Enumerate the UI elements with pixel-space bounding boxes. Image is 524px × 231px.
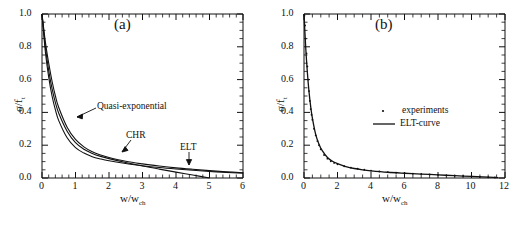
panel-a-yticks-minor [42,22,243,170]
panel-a-ytick-0: 0.0 [19,171,32,182]
panel-a-yaxis-title: σ/ft [12,97,27,112]
panel-b-xticks-minor [312,14,496,178]
annotation-quasi-exponential: Quasi-exponential [97,101,167,111]
panel-a-xtick-4: 4 [173,180,178,191]
panel-b-xtick-1: 2 [335,180,340,191]
panel-b-yaxis-title-main: σ/f [274,99,286,112]
elt-curve [42,14,243,173]
legend-label-elt-curve: ELT-curve [400,118,440,128]
panel-a-xaxis-title: w/wch [120,192,146,207]
panel-b-xtick-6: 12 [499,180,509,191]
panel-a-axes [42,14,243,178]
chr-curve [42,14,210,178]
panel-a-xtick-2: 2 [106,180,111,191]
panel-b-xtick-5: 10 [466,180,476,191]
panel-b-ytick-5: 1.0 [281,7,294,18]
elt-curve-fit [304,14,498,178]
experiments-scatter [303,15,496,179]
panel-b-yaxis-title: σ/ft [274,97,289,112]
panel-a-xticks [42,14,243,178]
panel-a-label: (a) [114,16,131,33]
legend-label-experiments: experiments [402,105,448,115]
panel-b-yaxis-title-sub: t [281,97,289,99]
legend-dot-marker [382,110,384,112]
panel-a-xtick-6: 6 [240,180,245,191]
panel-a-ytick-3: 0.6 [19,73,32,84]
panel-a-xtick-1: 1 [73,180,78,191]
panel-b-yticks [304,14,505,178]
panel-b-xtick-2: 4 [368,180,373,191]
annotation-elt: ELT [180,142,197,152]
panel-a-xticks-minor [49,14,237,178]
panel-b-ytick-1: 0.2 [281,138,294,149]
panel-b: (b) 0 2 4 6 8 10 12 0.0 0.2 0.4 0.6 0.8 … [262,0,524,231]
panel-b-axes [304,14,505,178]
panel-a-ytick-1: 0.2 [19,138,32,149]
panel-a-xaxis-title-main: w/w [120,192,139,204]
panel-a-yticks [42,14,243,178]
quasi-exponential-curve [42,14,243,173]
panel-b-ytick-4: 0.8 [281,40,294,51]
panel-b-xaxis-title-main: w/w [382,192,401,204]
panel-a-xtick-5: 5 [207,180,212,191]
panel-a-xtick-3: 3 [140,180,145,191]
panel-a-xaxis-title-sub: ch [139,199,146,207]
panel-a-yaxis-title-sub: t [19,97,27,99]
panel-b-xticks [304,14,505,178]
panel-b-xtick-3: 6 [402,180,407,191]
panel-b-xaxis-title: w/wch [382,192,408,207]
panel-b-yticks-minor [304,22,505,170]
annotation-chr: CHR [126,130,146,140]
panel-a-ytick-4: 0.8 [19,40,32,51]
panel-a-yaxis-title-main: σ/f [12,99,24,112]
panel-b-ytick-0: 0.0 [281,171,294,182]
panel-a: (a) 0 1 2 3 4 5 6 0.0 0.2 0.4 0.6 0.8 1.… [0,0,262,231]
panel-b-xaxis-title-sub: ch [401,199,408,207]
panel-b-label: (b) [375,16,393,33]
panel-b-ytick-3: 0.6 [281,73,294,84]
panel-a-ytick-5: 1.0 [19,7,32,18]
panel-b-xtick-4: 8 [435,180,440,191]
figure-container: (a) 0 1 2 3 4 5 6 0.0 0.2 0.4 0.6 0.8 1.… [0,0,524,231]
panel-a-xtick-0: 0 [39,180,44,191]
panel-b-xtick-0: 0 [301,180,306,191]
